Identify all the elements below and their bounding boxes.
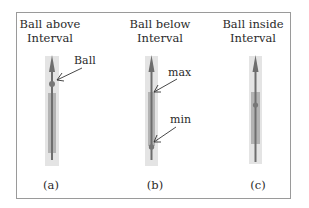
ball-icon — [253, 102, 258, 107]
indicators-graphic — [0, 0, 309, 208]
ball-icon — [149, 144, 154, 149]
indicator-b — [145, 55, 177, 166]
indicator-a — [45, 55, 82, 166]
ball-icon — [49, 81, 55, 87]
indicator-c — [249, 55, 262, 164]
